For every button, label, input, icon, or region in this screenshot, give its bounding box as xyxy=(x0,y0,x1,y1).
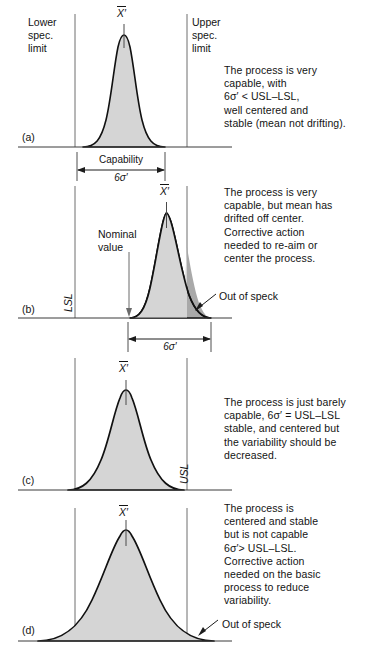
lsl-axis-label-b: LSL xyxy=(62,293,74,312)
lower-spec-limit-label: Lower spec. limit xyxy=(28,16,57,56)
mean-label-c: X′ xyxy=(119,362,128,374)
panel-letter-d: (d) xyxy=(22,624,35,636)
dim-arrowhead-left-b xyxy=(128,336,136,342)
mean-label-d-text: X′ xyxy=(119,506,128,518)
distribution-curve-a xyxy=(83,35,165,147)
upper-spec-limit-label: Upper spec. limit xyxy=(192,16,221,56)
caption-a: The process is very capable, with 6σ′ < … xyxy=(224,64,374,130)
dim-arrowhead-right-b xyxy=(203,336,211,342)
mean-label-b-text: X′ xyxy=(160,185,169,197)
panel-b-graphics xyxy=(18,186,232,352)
mean-label-d: X′ xyxy=(119,506,128,518)
panel-d-graphics xyxy=(18,508,232,641)
usl-axis-label-c: USL xyxy=(178,464,190,484)
out-of-spec-label-b: Out of speck xyxy=(219,290,278,302)
sigma-dimension-value-b: 6σ′ xyxy=(140,341,200,352)
mean-label-a: X′ xyxy=(117,7,126,19)
out-of-spec-label-d: Out of speck xyxy=(222,618,281,630)
caption-c: The process is just barely capable, 6σ′ … xyxy=(224,396,375,462)
out-of-spec-arrowhead-d xyxy=(198,627,206,636)
nominal-arrowhead-b xyxy=(126,308,132,317)
panel-letter-c: (c) xyxy=(22,474,34,486)
process-capability-figure: Lower spec. limit Upper spec. limit X′ (… xyxy=(0,0,375,666)
mean-label-b: X′ xyxy=(160,185,169,197)
mean-label-c-text: X′ xyxy=(119,362,128,374)
caption-d: The process is centered and stable but i… xyxy=(224,502,374,608)
nominal-value-label: Nominal value xyxy=(98,228,162,254)
panel-letter-a: (a) xyxy=(22,131,35,143)
mean-label-a-text: X′ xyxy=(117,7,126,19)
panel-c-graphics xyxy=(18,358,232,490)
distribution-curve-d xyxy=(38,530,214,641)
capability-dimension-label: Capability xyxy=(81,154,161,165)
panel-letter-b: (b) xyxy=(22,303,35,315)
caption-b: The process is very capable, but mean ha… xyxy=(224,186,374,265)
capability-dimension-value: 6σ′ xyxy=(81,172,161,183)
